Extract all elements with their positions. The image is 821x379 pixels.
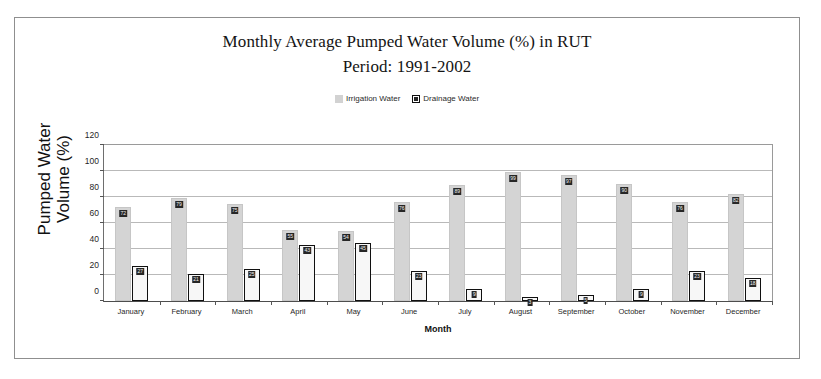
x-tick-label: August xyxy=(509,307,532,316)
bar-irrigation-water[interactable]: 54 xyxy=(338,231,354,301)
chart-subtitle: Period: 1991-2002 xyxy=(15,54,799,79)
bar-value-label: 21 xyxy=(192,276,200,283)
plot-area: 020406080100120 722779217525554354457623… xyxy=(103,144,773,302)
bar-drainage-water[interactable]: 18 xyxy=(745,278,761,301)
y-tick-label: 20 xyxy=(90,260,99,270)
y-tick-label: 40 xyxy=(90,234,99,244)
chart-frame: Monthly Average Pumped Water Volume (%) … xyxy=(14,17,800,359)
bar-group[interactable]: 993 xyxy=(494,145,550,301)
bar-drainage-water[interactable]: 9 xyxy=(466,289,482,301)
bar-irrigation-water[interactable]: 76 xyxy=(394,202,410,301)
plot-region: Pumped Water Volume (%) 020406080100120 … xyxy=(15,134,801,360)
chart-title-block: Monthly Average Pumped Water Volume (%) … xyxy=(15,18,799,79)
bar-value-label: 23 xyxy=(415,273,423,280)
bar-group[interactable]: 7525 xyxy=(215,145,271,301)
bar-drainage-water[interactable]: 27 xyxy=(132,266,148,301)
bar-value-label: 3 xyxy=(528,299,533,306)
legend-label-irrigation-water: Irrigation Water xyxy=(346,94,400,104)
bar-irrigation-water[interactable]: 79 xyxy=(171,198,187,301)
gray-square-icon xyxy=(335,95,343,103)
bar-group[interactable]: 5445 xyxy=(327,145,383,301)
bar-value-label: 45 xyxy=(359,245,367,252)
bar-value-label: 75 xyxy=(231,207,239,214)
bar-drainage-water[interactable]: 23 xyxy=(411,271,427,301)
x-tick-mark xyxy=(160,301,161,305)
bar-value-label: 18 xyxy=(749,280,757,287)
x-tick-label: March xyxy=(232,307,253,316)
bar-group[interactable]: 5543 xyxy=(271,145,327,301)
legend-item-irrigation-water: Irrigation Water xyxy=(335,94,400,104)
bar-irrigation-water[interactable]: 97 xyxy=(561,175,577,301)
x-tick-mark xyxy=(772,301,773,305)
bar-value-label: 82 xyxy=(732,197,740,204)
bar-group[interactable]: 8218 xyxy=(716,145,772,301)
bar-value-label: 97 xyxy=(565,178,573,185)
bar-drainage-water[interactable]: 43 xyxy=(299,245,315,301)
bar-value-label: 5 xyxy=(583,297,588,304)
y-tick-label: 80 xyxy=(90,182,99,192)
y-tick-label: 0 xyxy=(94,286,99,296)
bar-value-label: 99 xyxy=(509,175,517,182)
x-tick-label: May xyxy=(346,307,360,316)
bar-value-label: 9 xyxy=(639,291,644,298)
bar-drainage-water[interactable]: 45 xyxy=(355,243,371,302)
bar-group[interactable]: 975 xyxy=(549,145,605,301)
y-tick-label: 120 xyxy=(85,130,99,140)
bar-value-label: 76 xyxy=(676,205,684,212)
bar-value-label: 27 xyxy=(137,268,145,275)
bar-irrigation-water[interactable]: 99 xyxy=(505,172,521,301)
bar-irrigation-water[interactable]: 82 xyxy=(728,194,744,301)
bar-value-label: 23 xyxy=(693,273,701,280)
x-tick-mark xyxy=(382,301,383,305)
bar-drainage-water[interactable]: 9 xyxy=(633,289,649,301)
bar-drainage-water[interactable]: 23 xyxy=(689,271,705,301)
bar-irrigation-water[interactable]: 75 xyxy=(227,204,243,302)
x-tick-label: December xyxy=(726,307,761,316)
x-tick-mark xyxy=(215,301,216,305)
x-tick-mark xyxy=(549,301,550,305)
bars-layer: 7227792175255543544576238999939759097623… xyxy=(104,145,772,301)
legend-item-drainage-water: Drainage Water xyxy=(412,94,479,104)
bar-irrigation-water[interactable]: 90 xyxy=(616,184,632,301)
bar-irrigation-water[interactable]: 76 xyxy=(672,202,688,301)
bar-value-label: 89 xyxy=(454,188,462,195)
bar-value-label: 55 xyxy=(287,233,295,240)
y-tick-label: 100 xyxy=(85,156,99,166)
bar-group[interactable]: 899 xyxy=(438,145,494,301)
bar-irrigation-water[interactable]: 72 xyxy=(115,207,131,301)
bar-value-label: 79 xyxy=(175,201,183,208)
x-tick-label: September xyxy=(558,307,595,316)
x-tick-label: July xyxy=(458,307,471,316)
bar-value-label: 43 xyxy=(304,247,312,254)
y-axis-title: Pumped Water Volume (%) xyxy=(35,94,73,264)
bar-group[interactable]: 7921 xyxy=(160,145,216,301)
x-axis-title: Month xyxy=(103,324,773,334)
bar-drainage-water[interactable]: 21 xyxy=(188,274,204,301)
chart-legend: Irrigation Water Drainage Water xyxy=(15,93,799,105)
x-axis-tick-labels: JanuaryFebruaryMarchAprilMayJuneJulyAugu… xyxy=(103,307,773,321)
y-tick-label: 60 xyxy=(90,208,99,218)
x-tick-mark xyxy=(327,301,328,305)
bar-value-label: 25 xyxy=(248,271,256,278)
x-tick-mark xyxy=(494,301,495,305)
x-tick-label: February xyxy=(171,307,201,316)
bar-value-label: 72 xyxy=(120,210,128,217)
bar-value-label: 76 xyxy=(398,205,406,212)
bar-value-label: 90 xyxy=(621,187,629,194)
bar-drainage-water[interactable]: 3 xyxy=(522,297,538,301)
bar-irrigation-water[interactable]: 55 xyxy=(282,230,298,302)
legend-label-drainage-water: Drainage Water xyxy=(423,94,479,104)
bar-irrigation-water[interactable]: 89 xyxy=(449,185,465,301)
x-tick-label: June xyxy=(401,307,417,316)
bar-group[interactable]: 7623 xyxy=(661,145,717,301)
outlined-square-icon xyxy=(412,95,420,103)
x-tick-label: January xyxy=(117,307,144,316)
bar-drainage-water[interactable]: 25 xyxy=(244,269,260,302)
x-tick-mark xyxy=(438,301,439,305)
bar-group[interactable]: 909 xyxy=(605,145,661,301)
bar-drainage-water[interactable]: 5 xyxy=(578,295,594,302)
bar-group[interactable]: 7227 xyxy=(104,145,160,301)
x-tick-mark xyxy=(716,301,717,305)
chart-title: Monthly Average Pumped Water Volume (%) … xyxy=(15,29,799,54)
bar-group[interactable]: 7623 xyxy=(382,145,438,301)
